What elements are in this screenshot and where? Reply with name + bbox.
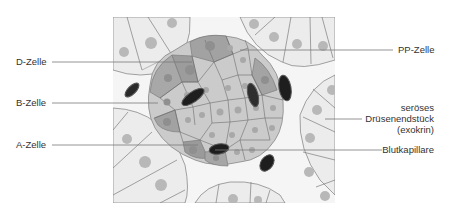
label-pp-cell: PP-Zelle [398,44,434,56]
pancreatic-islet-diagram [0,0,450,217]
label-a-cell: A-Zelle [16,139,46,151]
label-capillary: Blutkapillare [382,144,434,156]
label-b-cell: B-Zelle [16,97,46,109]
label-d-cell: D-Zelle [16,56,47,68]
label-serous-line3: (exokrin) [397,124,434,136]
